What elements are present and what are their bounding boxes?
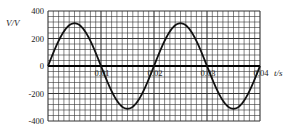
- y-axis-label: V/V: [6, 18, 21, 28]
- x-axis-label: t/s: [274, 68, 283, 78]
- y-tick-label: 0: [40, 61, 44, 71]
- y-tick-label: 200: [31, 34, 44, 44]
- y-tick-labels: 4002000-200-400: [28, 6, 44, 126]
- x-tick-labels: 0.010.020.030.04: [95, 68, 270, 78]
- y-tick-label: 400: [31, 6, 44, 16]
- y-tick-label: -200: [28, 89, 44, 99]
- voltage-time-chart: 4002000-200-400 0.010.020.030.04 V/V t/s: [0, 0, 300, 132]
- y-tick-label: -400: [28, 116, 44, 126]
